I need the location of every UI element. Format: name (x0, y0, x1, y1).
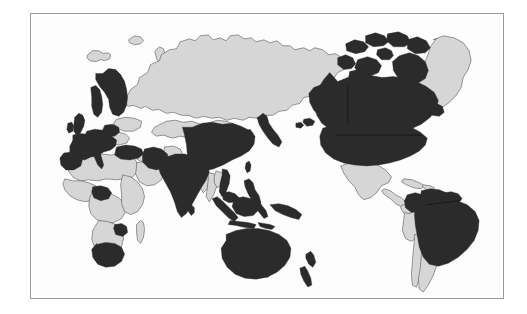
country-united-kingdom[interactable] (74, 113, 85, 135)
country-madagascar[interactable] (137, 221, 145, 244)
country-japan[interactable] (257, 113, 282, 147)
country-iceland[interactable] (87, 51, 111, 62)
island-cuba[interactable] (401, 179, 424, 189)
island-java[interactable] (228, 221, 256, 229)
country-ireland[interactable] (67, 122, 74, 133)
arctic-island-1[interactable] (346, 40, 369, 54)
arctic-island-3[interactable] (386, 32, 410, 47)
country-papua-new-guinea[interactable] (270, 204, 302, 220)
arctic-island-2[interactable] (366, 33, 389, 47)
islands-lesser-sunda[interactable] (258, 223, 275, 230)
country-sri-lanka[interactable] (188, 205, 194, 216)
world-map-figure: World map with a set of countries shaded… (0, 0, 527, 314)
map-frame (30, 13, 504, 299)
country-new-zealand[interactable] (300, 251, 316, 287)
country-svalbard[interactable] (129, 36, 144, 45)
country-norway-sweden-finland[interactable] (91, 69, 128, 118)
country-taiwan[interactable] (245, 161, 251, 173)
country-australia[interactable] (221, 228, 291, 279)
arctic-island-5[interactable] (377, 48, 394, 60)
country-russia[interactable] (112, 35, 346, 120)
country-brazil[interactable] (414, 199, 479, 267)
country-china[interactable] (182, 122, 255, 171)
world-map-svg[interactable] (31, 14, 503, 298)
region-korea[interactable] (245, 129, 254, 150)
country-south-africa[interactable] (92, 242, 125, 267)
country-zimbabwe[interactable] (114, 224, 128, 237)
arctic-island-4[interactable] (407, 37, 430, 54)
country-united-states[interactable] (320, 121, 428, 166)
